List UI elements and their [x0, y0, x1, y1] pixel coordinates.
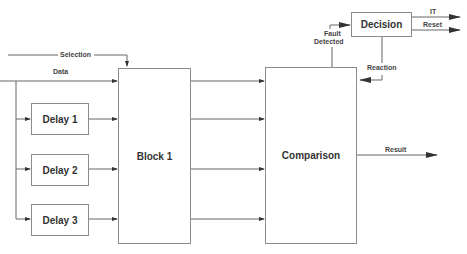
data-label: Data: [53, 68, 68, 76]
delay-2-label: Delay 2: [42, 165, 77, 176]
reaction-label: Reaction: [367, 64, 397, 72]
reset-label: Reset: [423, 21, 442, 29]
delay-3-block: Delay 3: [31, 204, 89, 236]
comparison-block: Comparison: [265, 67, 357, 244]
delay-3-label: Delay 3: [42, 215, 77, 226]
delay-2-block: Delay 2: [31, 154, 89, 186]
detected-label: Detected: [314, 38, 344, 46]
it-label: IT: [430, 8, 436, 16]
block-1: Block 1: [118, 68, 191, 244]
fault-label: Fault: [324, 30, 341, 38]
decision-block: Decision: [351, 12, 412, 37]
delay-1-label: Delay 1: [42, 114, 77, 125]
reaction-line: [360, 37, 382, 80]
result-label: Result: [385, 146, 406, 154]
decision-label: Decision: [361, 19, 403, 30]
block-1-label: Block 1: [137, 151, 173, 162]
comparison-label: Comparison: [282, 150, 340, 161]
selection-label: Selection: [60, 51, 91, 59]
delay-1-block: Delay 1: [31, 103, 89, 135]
